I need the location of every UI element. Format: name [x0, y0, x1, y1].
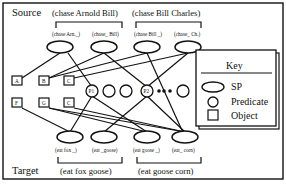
object-label-f: F	[15, 100, 18, 106]
target-group-1: (eat fox goose)	[60, 166, 112, 176]
object-label-c1: C	[67, 78, 71, 84]
source-group-1: (chase Arnold Bill)	[52, 8, 118, 18]
source-sp-label-4: (chase_ Ch.)	[174, 31, 200, 38]
source-sp-label-1: (chase Arn._)	[52, 31, 80, 38]
predicate-label-p1: P1	[89, 88, 95, 94]
predicate-node-2	[103, 85, 115, 97]
target-sp-node-1	[57, 131, 83, 143]
source-sp-label-2: (chase_ Bill)	[92, 31, 119, 38]
key-square-icon	[208, 110, 218, 120]
ellipsis-dots	[157, 89, 172, 93]
source-sp-label-3: (chase Bill _)	[134, 31, 162, 38]
source-sp-node-1	[47, 41, 73, 53]
source-bracket-2	[136, 22, 201, 28]
target-label: Target	[12, 165, 39, 176]
predicate-node-5	[177, 85, 189, 97]
object-label-c2: C	[67, 100, 71, 106]
predicate-node-3	[120, 85, 132, 97]
target-bracket-1	[58, 157, 122, 163]
mapping-diagram: Source (chase Arnold Bill) (chase Bill C…	[0, 0, 286, 185]
object-label-g: G	[42, 100, 46, 106]
key-circle-icon	[208, 97, 218, 107]
object-label-b: B	[42, 78, 46, 84]
target-sp-label-3: (eat goose _)	[133, 147, 160, 154]
key-item-predicate: Predicate	[231, 96, 269, 107]
target-sp-node-3	[134, 131, 160, 143]
source-sp-node-3	[134, 41, 160, 53]
source-group-2: (chase Bill Charles)	[132, 8, 200, 18]
predicate-label-p2: P2	[144, 88, 150, 94]
target-sp-label-4: (eat_ corn)	[172, 147, 195, 154]
source-label: Source	[12, 7, 41, 18]
key-legend: Key SP Predicate Object	[196, 50, 279, 129]
object-label-a: A	[15, 78, 19, 84]
key-item-sp: SP	[231, 81, 243, 92]
target-sp-label-1: (eat fox _)	[55, 147, 77, 154]
source-bracket-1	[56, 22, 122, 28]
key-title: Key	[226, 60, 243, 71]
source-sp-node-2	[91, 41, 117, 53]
key-item-object: Object	[231, 110, 258, 121]
target-sp-label-2: (eat _goose)	[92, 147, 118, 154]
target-group-2: (eat goose corn)	[138, 166, 193, 176]
target-bracket-2	[137, 157, 201, 163]
target-sp-node-2	[91, 131, 117, 143]
target-sp-node-4	[172, 131, 198, 143]
key-ellipse-icon	[202, 82, 224, 92]
